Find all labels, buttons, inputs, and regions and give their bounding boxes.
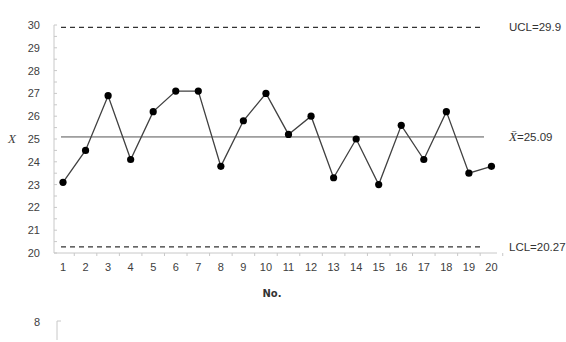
y-tick-label: 26 [28, 110, 40, 122]
y-tick-label: 20 [28, 247, 40, 259]
data-point-marker [150, 108, 157, 115]
x-tick-label: 5 [150, 261, 156, 273]
data-point-marker [420, 156, 427, 163]
y-axis-label: X [7, 131, 17, 146]
x-tick-label: 4 [128, 261, 134, 273]
data-point-marker [443, 108, 450, 115]
data-point-marker [127, 156, 134, 163]
x-tick-label: 7 [195, 261, 201, 273]
x-tick-label: 14 [350, 261, 362, 273]
x-tick-label: 15 [373, 261, 385, 273]
next-chart-fragment: 8 [34, 316, 61, 340]
control-lines: UCL=29.9X̄=25.09LCL=20.27 [61, 21, 566, 253]
control-chart: 2021222324252627282930 12345678910111213… [0, 0, 566, 342]
x-axis-label: No. [262, 288, 281, 299]
x-tick-label: 10 [260, 261, 272, 273]
x-tick-label: 1 [60, 261, 66, 273]
y-tick-label: 25 [28, 133, 40, 145]
series-line [63, 91, 491, 185]
y-axis: 2021222324252627282930 [28, 19, 57, 259]
fragment-tick-label: 8 [34, 316, 40, 328]
data-point-marker [195, 88, 202, 95]
y-tick-label: 27 [28, 87, 40, 99]
x-tick-label: 6 [173, 261, 179, 273]
data-point-marker [375, 181, 382, 188]
data-point-marker [398, 122, 405, 129]
data-point-marker [240, 117, 247, 124]
ucl-label: UCL=29.9 [509, 21, 561, 33]
data-point-marker [105, 92, 112, 99]
data-point-marker [307, 113, 314, 120]
data-point-marker [262, 90, 269, 97]
x-tick-label: 19 [463, 261, 475, 273]
data-point-marker [217, 163, 224, 170]
x-tick-label: 12 [305, 261, 317, 273]
data-point-marker [465, 170, 472, 177]
x-axis: 1234567891011121314151617181920 [54, 253, 503, 273]
x-tick-label: 20 [485, 261, 497, 273]
data-point-marker [488, 163, 495, 170]
x-tick-label: 2 [82, 261, 88, 273]
y-tick-label: 29 [28, 42, 40, 54]
y-tick-label: 28 [28, 65, 40, 77]
y-tick-label: 30 [28, 19, 40, 31]
y-tick-label: 22 [28, 201, 40, 213]
x-tick-label: 18 [440, 261, 452, 273]
x-tick-label: 11 [283, 261, 294, 273]
data-point-marker [285, 131, 292, 138]
x-tick-label: 17 [418, 261, 430, 273]
data-point-marker [353, 135, 360, 142]
y-tick-label: 21 [28, 224, 40, 236]
y-tick-label: 24 [28, 156, 40, 168]
fragment-axis [57, 321, 61, 340]
data-series [59, 88, 495, 189]
data-point-marker [330, 174, 337, 181]
x-tick-label: 8 [218, 261, 224, 273]
y-tick-label: 23 [28, 179, 40, 191]
cl-label: X̄=25.09 [508, 129, 552, 144]
x-tick-label: 9 [240, 261, 246, 273]
x-tick-label: 3 [105, 261, 111, 273]
lcl-label: LCL=20.27 [509, 241, 566, 253]
x-tick-label: 16 [395, 261, 407, 273]
data-point-marker [172, 88, 179, 95]
data-point-marker [82, 147, 89, 154]
data-point-marker [59, 179, 66, 186]
x-tick-label: 13 [327, 261, 339, 273]
